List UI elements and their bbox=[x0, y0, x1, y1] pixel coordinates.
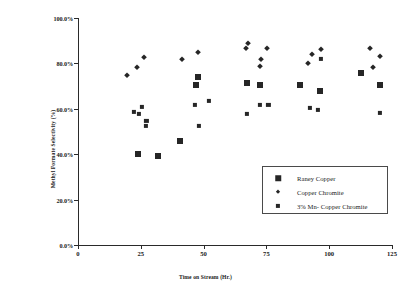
data-point bbox=[246, 42, 250, 46]
x-tick-label: 100 bbox=[324, 250, 334, 257]
x-tick-label: 50 bbox=[200, 250, 207, 257]
data-point bbox=[137, 112, 141, 116]
y-tick-mark bbox=[74, 154, 78, 155]
y-tick-label: 60.0% bbox=[56, 105, 73, 112]
x-tick-mark bbox=[329, 245, 330, 249]
data-point bbox=[377, 82, 383, 88]
data-point bbox=[257, 82, 263, 88]
scatter-chart: 0.0%20.0%40.0%60.0%80.0%100.0% 025507510… bbox=[0, 0, 411, 297]
data-point bbox=[195, 74, 201, 80]
chart-legend: Raney CopperCopper Chromite3% Mn- Copper… bbox=[262, 166, 388, 214]
y-tick-label: 20.0% bbox=[56, 196, 73, 203]
data-point bbox=[245, 112, 249, 116]
legend-marker-icon bbox=[272, 187, 284, 197]
legend-item-label: 3% Mn- Copper Chromite bbox=[297, 203, 368, 210]
data-point bbox=[378, 111, 382, 115]
y-tick-mark bbox=[74, 109, 78, 110]
data-point bbox=[306, 61, 310, 65]
y-tick-mark bbox=[74, 200, 78, 201]
legend-item: Copper Chromite bbox=[263, 185, 387, 199]
data-point bbox=[193, 103, 197, 107]
data-point bbox=[196, 50, 200, 54]
data-point bbox=[135, 151, 141, 157]
y-tick-label: 100.0% bbox=[53, 15, 73, 22]
data-point bbox=[245, 47, 249, 51]
y-tick-label: 0.0% bbox=[59, 242, 73, 249]
y-axis-title: Methyl Formate Selectivity (%) bbox=[50, 109, 56, 188]
data-point bbox=[144, 119, 148, 123]
data-point bbox=[316, 108, 320, 112]
data-point bbox=[244, 80, 250, 86]
data-point bbox=[177, 138, 183, 144]
data-point bbox=[260, 57, 264, 61]
y-tick-mark bbox=[74, 18, 78, 19]
x-axis-title: Time on Stream (Hr.) bbox=[0, 274, 411, 280]
data-point bbox=[132, 109, 136, 113]
x-tick-mark bbox=[141, 245, 142, 249]
y-tick-label: 40.0% bbox=[56, 151, 73, 158]
data-point bbox=[319, 57, 323, 61]
data-point bbox=[143, 56, 147, 60]
legend-item: 3% Mn- Copper Chromite bbox=[263, 199, 387, 213]
data-point bbox=[181, 58, 185, 62]
data-point bbox=[319, 48, 323, 52]
data-point bbox=[266, 46, 270, 50]
data-point bbox=[140, 104, 144, 108]
x-tick-mark bbox=[392, 245, 393, 249]
data-point bbox=[197, 124, 201, 128]
data-point bbox=[125, 73, 129, 77]
legend-item-label: Copper Chromite bbox=[297, 189, 344, 196]
data-point bbox=[379, 54, 383, 58]
data-point bbox=[135, 65, 139, 69]
x-tick-mark bbox=[204, 245, 205, 249]
x-tick-mark bbox=[266, 245, 267, 249]
y-tick-label: 80.0% bbox=[56, 60, 73, 67]
data-point bbox=[297, 82, 303, 88]
data-point bbox=[143, 124, 147, 128]
x-axis-line bbox=[78, 245, 393, 246]
x-tick-label: 0 bbox=[76, 250, 79, 257]
data-point bbox=[369, 47, 373, 51]
x-tick-label: 125 bbox=[387, 250, 397, 257]
data-point bbox=[358, 70, 364, 76]
data-point bbox=[371, 65, 375, 69]
y-tick-mark bbox=[74, 63, 78, 64]
data-point bbox=[155, 153, 161, 159]
data-point bbox=[308, 106, 312, 110]
data-point bbox=[207, 99, 211, 103]
data-point bbox=[317, 88, 323, 94]
data-point bbox=[310, 53, 314, 57]
legend-marker-icon bbox=[272, 201, 284, 211]
legend-marker-icon bbox=[272, 173, 284, 183]
data-point bbox=[193, 82, 199, 88]
x-tick-label: 75 bbox=[263, 250, 270, 257]
data-point bbox=[258, 64, 262, 68]
legend-item: Raney Copper bbox=[263, 171, 387, 185]
x-tick-label: 25 bbox=[138, 250, 145, 257]
x-tick-mark bbox=[78, 245, 79, 249]
data-point bbox=[266, 103, 270, 107]
data-point bbox=[258, 103, 262, 107]
legend-item-label: Raney Copper bbox=[297, 175, 336, 182]
